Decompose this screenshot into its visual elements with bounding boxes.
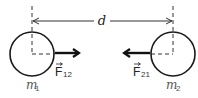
mass-label-m1: m 1 xyxy=(26,78,40,93)
force-label-f12: F 12 xyxy=(55,63,72,80)
force-label-f21: F 21 xyxy=(133,63,150,80)
mass-label-m2: m 2 xyxy=(166,78,181,93)
svg-text:12: 12 xyxy=(63,70,72,79)
svg-text:21: 21 xyxy=(141,70,150,79)
gravitation-diagram: d F 12 F 21 m 1 m 2 xyxy=(0,0,198,98)
svg-text:1: 1 xyxy=(35,84,40,93)
distance-label: d xyxy=(98,13,106,28)
svg-text:F: F xyxy=(55,65,62,79)
svg-text:2: 2 xyxy=(176,84,181,93)
svg-text:F: F xyxy=(133,65,140,79)
